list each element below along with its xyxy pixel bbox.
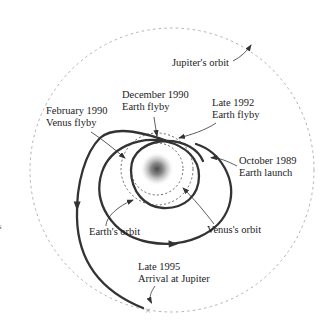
label-october-1989-line2: Earth launch xyxy=(239,167,296,179)
cropped-text-fragment: s xyxy=(0,221,2,231)
label-october-1989-line1: October 1989 xyxy=(239,155,296,167)
label-venus-orbit: Venus's orbit xyxy=(207,224,261,236)
label-february-1990-line2: Venus flyby xyxy=(46,117,108,129)
label-december-1990-line1: December 1990 xyxy=(122,89,189,101)
label-october-1989-earth-launch: October 1989 Earth launch xyxy=(239,155,296,178)
label-jupiter-orbit: Jupiter's orbit xyxy=(172,57,229,69)
jupiter-orbit-leader-arrow xyxy=(233,45,251,61)
february-1990-leader-arrow xyxy=(91,132,125,158)
label-earth-orbit-text: Earth's orbit xyxy=(89,226,140,238)
label-late-1992-line2: Earth flyby xyxy=(212,109,260,121)
label-february-1990-venus-flyby: February 1990 Venus flyby xyxy=(46,105,108,128)
venus-orbit-leader-arrow xyxy=(183,188,214,224)
label-late-1995-line2: Arrival at Jupiter xyxy=(138,273,210,285)
trajectory-direction-arrow-left xyxy=(74,202,81,212)
label-late-1992-earth-flyby: Late 1992 Earth flyby xyxy=(212,97,260,120)
label-december-1990-earth-flyby: December 1990 Earth flyby xyxy=(122,89,189,112)
sun xyxy=(140,152,174,186)
label-jupiter-orbit-text: Jupiter's orbit xyxy=(172,57,229,69)
label-december-1990-line2: Earth flyby xyxy=(122,101,189,113)
trajectory-direction-arrow-bottom xyxy=(169,240,178,247)
earth-orbit-leader-arrow xyxy=(106,200,133,226)
label-february-1990-line1: February 1990 xyxy=(46,105,108,117)
label-late-1992-line1: Late 1992 xyxy=(212,97,260,109)
trajectory-diagram: × Jupiter's orbit December 1990 Earth fl… xyxy=(0,0,335,328)
label-earth-orbit: Earth's orbit xyxy=(89,226,140,238)
arrival-x-mark: × xyxy=(145,305,151,316)
label-late-1995-line1: Late 1995 xyxy=(138,261,210,273)
late-1992-leader-arrow xyxy=(179,123,216,138)
late-1995-leader-arrow xyxy=(150,286,155,303)
label-late-1995-arrival: Late 1995 Arrival at Jupiter xyxy=(138,261,210,284)
label-venus-orbit-text: Venus's orbit xyxy=(207,224,261,236)
